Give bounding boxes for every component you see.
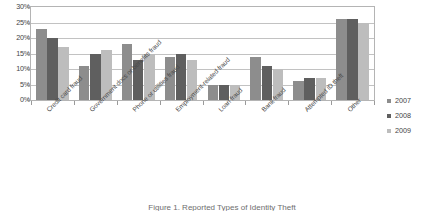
legend-label: 2008	[395, 112, 411, 119]
x-axis-tick	[160, 101, 161, 105]
bar-group	[331, 7, 374, 100]
bar	[176, 54, 187, 101]
legend-item: 2007	[387, 93, 442, 108]
x-axis-tick	[74, 101, 75, 105]
legend-item: 2009	[387, 123, 442, 138]
x-axis-tick	[245, 101, 246, 105]
x-axis-tick	[117, 101, 118, 105]
legend-swatch-icon	[387, 99, 391, 103]
x-axis-tick	[31, 101, 32, 105]
legend-label: 2007	[395, 97, 411, 104]
legend-label: 2009	[395, 127, 411, 134]
y-axis: 30%25%20%15%10%5%0%	[0, 6, 30, 101]
bar	[250, 57, 261, 100]
bar	[79, 66, 90, 100]
bar	[336, 19, 347, 100]
x-axis-tick	[331, 101, 332, 105]
x-axis-tick	[374, 101, 375, 105]
bar	[358, 23, 369, 101]
bar	[208, 85, 219, 101]
legend-item: 2008	[387, 108, 442, 123]
x-axis-tick	[288, 101, 289, 105]
bar	[90, 54, 101, 101]
bar	[47, 38, 58, 100]
bar	[36, 29, 47, 100]
bar-chart: 30%25%20%15%10%5%0% Credit card fraudGov…	[0, 0, 444, 211]
legend: 200720082009	[387, 93, 442, 138]
bar	[293, 81, 304, 100]
bar	[347, 19, 358, 100]
x-axis-tick	[203, 101, 204, 105]
figure-caption: Figure 1. Reported Types of Identity The…	[0, 203, 444, 211]
legend-swatch-icon	[387, 129, 391, 133]
bar	[262, 66, 273, 100]
legend-swatch-icon	[387, 114, 391, 118]
